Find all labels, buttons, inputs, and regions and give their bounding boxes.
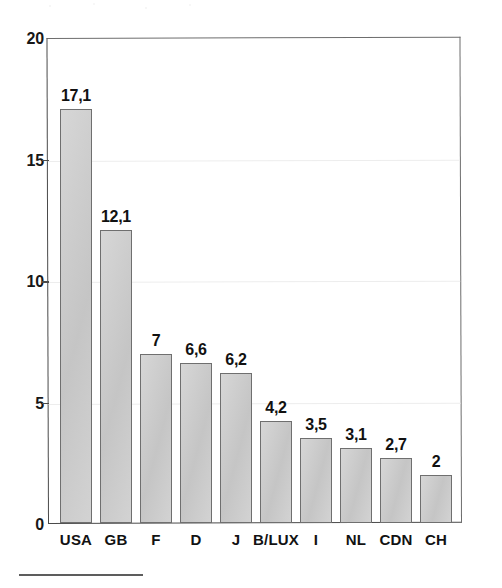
y-tick-mark-10 [42, 281, 49, 283]
bar-value-label: 12,1 [86, 208, 146, 226]
bar-chart: 20 15 10 5 0 17,1USA12,1GB7F6,6D6,2J4,2B… [0, 0, 502, 588]
bar-j[interactable] [220, 373, 252, 523]
bar-value-label: 6,2 [206, 351, 266, 369]
bar-usa[interactable] [60, 109, 92, 523]
bar-value-label: 2 [406, 453, 466, 471]
y-tick-mark-5 [42, 403, 49, 405]
bar-i[interactable] [300, 438, 332, 523]
bar-d[interactable] [180, 363, 212, 523]
footnote-rule [19, 574, 143, 576]
x-axis-label-ch: CH [396, 531, 476, 548]
bar-ch[interactable] [420, 475, 452, 523]
gridline-15 [48, 159, 460, 161]
bar-b-lux[interactable] [260, 421, 292, 523]
y-tick-mark-15 [42, 160, 49, 162]
bar-value-label: 4,2 [246, 399, 306, 417]
y-tick-label-15: 15 [4, 152, 44, 170]
bar-f[interactable] [140, 354, 172, 523]
bar-value-label: 17,1 [46, 87, 106, 105]
y-tick-label-20: 20 [4, 30, 44, 48]
y-tick-label-10: 10 [4, 273, 44, 291]
y-tick-label-5: 5 [4, 395, 44, 413]
bar-value-label: 2,7 [366, 436, 426, 454]
bar-gb[interactable] [100, 230, 132, 523]
bar-nl[interactable] [340, 448, 372, 523]
